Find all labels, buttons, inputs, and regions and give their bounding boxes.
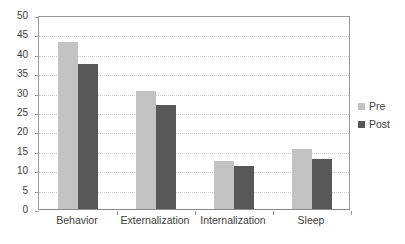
y-axis-tick-labels: 05101520253035404550 (0, 16, 34, 210)
bar-chart: 05101520253035404550 BehaviorExternaliza… (0, 0, 405, 244)
y-axis-tick-label: 50 (17, 11, 28, 21)
y-axis-tick (35, 153, 39, 154)
y-axis-tick (35, 172, 39, 173)
y-axis-tick-label: 40 (17, 50, 28, 60)
legend-label-pre: Pre (369, 101, 385, 112)
y-axis-tick (35, 211, 39, 212)
bar-post-externalization (156, 105, 176, 209)
legend-item-pre: Pre (358, 97, 404, 115)
plot-area (38, 16, 350, 210)
bar-pre-sleep (292, 149, 312, 209)
legend-label-post: Post (369, 119, 390, 130)
y-axis-tick-label: 15 (17, 147, 28, 157)
legend-item-post: Post (358, 115, 404, 133)
y-axis-tick (35, 95, 39, 96)
bar-pre-internalization (214, 161, 234, 209)
bar-post-behavior (78, 64, 98, 209)
x-axis-tick (351, 211, 352, 215)
legend: Pre Post (358, 97, 404, 133)
y-axis-tick-label: 0 (22, 205, 28, 215)
bar-pre-behavior (58, 42, 78, 209)
y-axis-tick-label: 45 (17, 30, 28, 40)
y-axis-tick (35, 56, 39, 57)
y-axis-tick-label: 5 (22, 186, 28, 196)
y-axis-tick-label: 30 (17, 89, 28, 99)
bar-post-internalization (234, 166, 254, 209)
y-axis-tick (35, 133, 39, 134)
y-axis-tick (35, 17, 39, 18)
legend-swatch-post-icon (358, 121, 365, 128)
bar-pre-externalization (136, 91, 156, 209)
legend-swatch-pre-icon (358, 103, 365, 110)
x-axis-category-label: Externalization (116, 213, 194, 227)
y-axis-tick (35, 192, 39, 193)
y-axis-tick-label: 35 (17, 69, 28, 79)
gridline (39, 36, 349, 37)
y-axis-tick (35, 36, 39, 37)
gridline (39, 56, 349, 57)
x-axis-category-label: Sleep (272, 213, 350, 227)
bar-post-sleep (312, 159, 332, 209)
y-axis-tick-label: 10 (17, 166, 28, 176)
y-axis-tick-label: 25 (17, 108, 28, 118)
y-axis-tick (35, 75, 39, 76)
x-axis-category-label: Behavior (38, 213, 116, 227)
y-axis-tick (35, 114, 39, 115)
x-axis-category-labels: BehaviorExternalizationInternalizationSl… (38, 213, 350, 233)
y-axis-tick-label: 20 (17, 127, 28, 137)
x-axis-category-label: Internalization (194, 213, 272, 227)
